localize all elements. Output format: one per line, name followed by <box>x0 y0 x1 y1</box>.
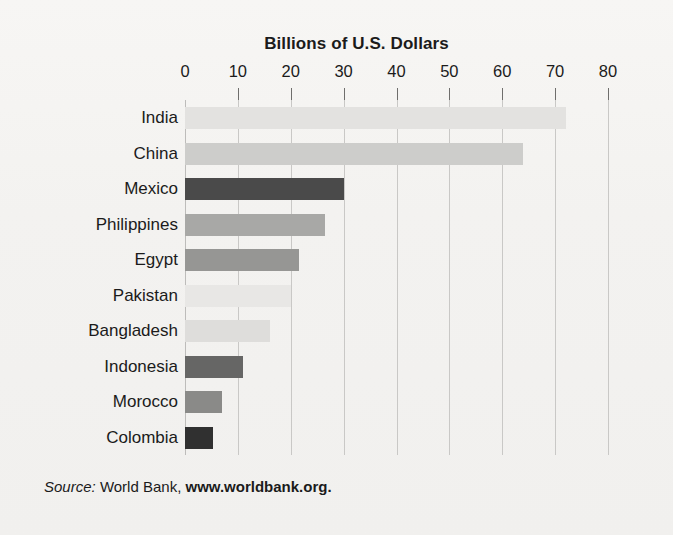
gridline-80 <box>608 100 609 455</box>
bar-row[interactable] <box>185 420 608 456</box>
x-tick-mark-40 <box>397 88 398 100</box>
bar-row[interactable] <box>185 171 608 207</box>
bar-row[interactable] <box>185 242 608 278</box>
bar-row[interactable] <box>185 207 608 243</box>
x-tick-mark-30 <box>344 88 345 100</box>
x-tick-mark-50 <box>449 88 450 100</box>
chart-page: Billions of U.S. Dollars 010203040506070… <box>0 0 673 535</box>
x-tick-mark-10 <box>238 88 239 100</box>
plot-area <box>185 100 608 455</box>
x-tick-mark-60 <box>502 88 503 100</box>
bar-row[interactable] <box>185 278 608 314</box>
bar-indonesia[interactable] <box>185 356 243 378</box>
y-axis-category-labels: IndiaChinaMexicoPhilippinesEgyptPakistan… <box>20 100 178 455</box>
x-tick-label-50: 50 <box>440 62 458 81</box>
source-label: Source: <box>44 478 96 495</box>
y-label-morocco: Morocco <box>113 384 178 420</box>
source-url: www.worldbank.org. <box>185 478 331 495</box>
y-label-indonesia: Indonesia <box>104 349 178 385</box>
bar-row[interactable] <box>185 313 608 349</box>
y-label-philippines: Philippines <box>96 207 178 243</box>
bar-colombia[interactable] <box>185 427 213 449</box>
x-tick-label-10: 10 <box>229 62 247 81</box>
y-label-colombia: Colombia <box>106 420 178 456</box>
source-note: Source: World Bank, www.worldbank.org. <box>44 478 332 495</box>
x-axis-tick-labels: 01020304050607080 <box>185 62 608 86</box>
y-label-pakistan: Pakistan <box>113 278 178 314</box>
x-tick-label-60: 60 <box>493 62 511 81</box>
bar-philippines[interactable] <box>185 214 325 236</box>
bar-pakistan[interactable] <box>185 285 291 307</box>
y-label-china: China <box>134 136 178 172</box>
bar-mexico[interactable] <box>185 178 344 200</box>
bar-bangladesh[interactable] <box>185 320 270 342</box>
x-tick-label-20: 20 <box>282 62 300 81</box>
y-label-india: India <box>141 100 178 136</box>
x-tick-mark-20 <box>291 88 292 100</box>
x-tick-label-80: 80 <box>599 62 617 81</box>
bar-series <box>185 100 608 455</box>
y-label-egypt: Egypt <box>135 242 178 278</box>
x-tick-label-70: 70 <box>546 62 564 81</box>
y-label-bangladesh: Bangladesh <box>88 313 178 349</box>
y-label-mexico: Mexico <box>124 171 178 207</box>
bar-india[interactable] <box>185 107 566 129</box>
x-tick-label-30: 30 <box>334 62 352 81</box>
source-publisher: World Bank, <box>100 478 181 495</box>
bar-china[interactable] <box>185 143 523 165</box>
x-axis-tick-marks <box>185 88 608 100</box>
bar-row[interactable] <box>185 136 608 172</box>
x-tick-label-40: 40 <box>387 62 405 81</box>
chart-title: Billions of U.S. Dollars <box>0 34 673 54</box>
bar-row[interactable] <box>185 349 608 385</box>
bar-egypt[interactable] <box>185 249 299 271</box>
x-tick-label-0: 0 <box>180 62 189 81</box>
bar-row[interactable] <box>185 384 608 420</box>
bar-row[interactable] <box>185 100 608 136</box>
bar-morocco[interactable] <box>185 391 222 413</box>
x-tick-mark-80 <box>608 88 609 100</box>
x-tick-mark-70 <box>555 88 556 100</box>
